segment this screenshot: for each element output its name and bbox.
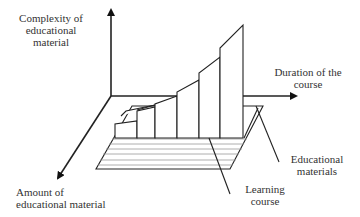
label-line: Learning [240,183,290,195]
label-line: Duration of the [268,66,348,78]
bars [115,25,243,138]
educational-materials-pointer [256,106,279,162]
learning-course-label: Learning course [240,183,290,207]
vertical-axis-label: Complexity of educational material [8,12,94,48]
label-line: educational material [16,198,105,210]
label-line: Educational [287,153,347,165]
label-line: material [8,36,94,48]
educational-materials-label: Educational materials [287,153,347,177]
diagonal-axis-label: Amount of educational material [16,186,105,210]
label-line: Complexity of [8,12,94,24]
label-line: course [240,195,290,207]
horizontal-axis-label: Duration of the course [268,66,348,90]
label-line: course [268,78,348,90]
label-line: educational [8,24,94,36]
label-line: Amount of [16,186,105,198]
label-line: materials [287,165,347,177]
